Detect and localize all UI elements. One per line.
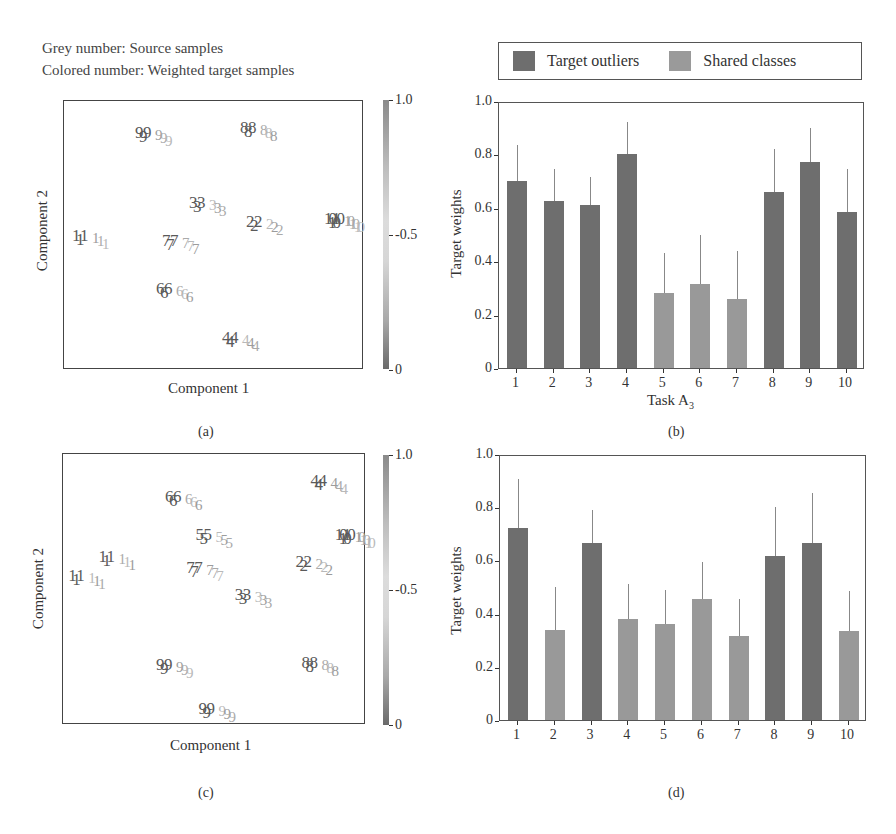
x-axis-label-c: Component 1 bbox=[170, 737, 251, 754]
colorbar-tick-min-a: 0 bbox=[395, 362, 402, 378]
x-tick-mark bbox=[774, 721, 775, 725]
source-sample-digit: 1 bbox=[80, 226, 85, 246]
legend-swatch-shared-classes bbox=[669, 51, 691, 71]
bar-2 bbox=[545, 630, 565, 720]
y-tick-label: 0 bbox=[457, 712, 493, 728]
x-tick-mark bbox=[589, 369, 590, 373]
caption-d: (d) bbox=[668, 785, 684, 801]
source-sample-digit: 1 bbox=[76, 566, 81, 586]
source-sample-digit: 6 bbox=[173, 487, 178, 507]
x-tick-label: 7 bbox=[732, 375, 739, 391]
target-sample-digit: 9 bbox=[165, 133, 169, 150]
source-sample-digit: 10 bbox=[343, 525, 352, 545]
scatter-plot-c: 4444446666665555551010101010101111111111… bbox=[62, 453, 365, 724]
bar-10 bbox=[837, 212, 857, 368]
target-sample-digit: 5 bbox=[220, 532, 224, 549]
y-axis-label-d: Target weights bbox=[448, 531, 465, 651]
target-sample-digit: 9 bbox=[228, 709, 232, 726]
bar-4 bbox=[618, 619, 638, 720]
source-sample-digit: 9 bbox=[206, 699, 211, 719]
x-tick-label: 2 bbox=[550, 727, 557, 743]
target-sample-digit: 1 bbox=[98, 576, 102, 593]
target-sample-digit: 3 bbox=[260, 592, 264, 609]
x-tick-mark bbox=[811, 721, 812, 725]
error-bar-6 bbox=[702, 562, 703, 599]
target-sample-digit: 7 bbox=[182, 235, 186, 252]
x-tick-label: 9 bbox=[807, 727, 814, 743]
bar-9 bbox=[802, 543, 822, 720]
target-sample-digit: 2 bbox=[266, 216, 270, 233]
target-sample-digit: 5 bbox=[225, 535, 229, 552]
caption-b: (b) bbox=[668, 424, 684, 440]
target-sample-digit: 9 bbox=[218, 703, 222, 720]
error-bar-10 bbox=[847, 169, 848, 212]
source-sample-digit: 9 bbox=[143, 123, 148, 143]
y-tick-label: 0.8 bbox=[456, 146, 492, 162]
y-tick-mark bbox=[495, 455, 499, 456]
y-tick-mark bbox=[494, 262, 498, 263]
source-sample-digit: 7 bbox=[170, 231, 175, 251]
x-tick-label: 4 bbox=[622, 375, 629, 391]
target-sample-digit: 6 bbox=[190, 494, 194, 511]
target-sample-digit: 6 bbox=[181, 286, 185, 303]
x-axis-label-a: Component 1 bbox=[168, 380, 249, 397]
target-sample-digit: 3 bbox=[209, 197, 213, 214]
source-sample-digit: 8 bbox=[248, 118, 253, 138]
error-bar-4 bbox=[628, 584, 629, 619]
x-tick-mark bbox=[738, 721, 739, 725]
source-sample-digit: 9 bbox=[164, 655, 169, 675]
target-sample-digit: 8 bbox=[321, 657, 325, 674]
target-sample-digit: 3 bbox=[265, 595, 269, 612]
x-tick-mark bbox=[553, 369, 554, 373]
y-axis-label-c: Component 2 bbox=[30, 529, 47, 649]
error-bar-3 bbox=[590, 177, 591, 205]
y-axis-label-b: Target weights bbox=[448, 174, 465, 294]
target-sample-digit: 2 bbox=[325, 562, 329, 579]
error-bar-2 bbox=[554, 169, 555, 201]
y-tick-label: 1.0 bbox=[456, 93, 492, 109]
source-sample-digit: 4 bbox=[230, 328, 235, 348]
bar-chart-d bbox=[499, 455, 866, 721]
source-sample-digit: 5 bbox=[203, 525, 208, 545]
bar-6 bbox=[692, 599, 712, 720]
target-sample-digit: 1 bbox=[128, 557, 132, 574]
bar-5 bbox=[655, 624, 675, 720]
source-sample-digit: 6 bbox=[164, 279, 169, 299]
target-sample-digit: 2 bbox=[276, 222, 280, 239]
bar-3 bbox=[580, 205, 600, 368]
error-bar-10 bbox=[849, 591, 850, 631]
bar-7 bbox=[729, 636, 749, 720]
target-sample-digit: 10 bbox=[354, 219, 361, 236]
y-tick-mark bbox=[495, 615, 499, 616]
target-sample-digit: 1 bbox=[93, 573, 97, 590]
x-tick-mark bbox=[664, 721, 665, 725]
x-tick-label: 10 bbox=[840, 727, 854, 743]
y-tick-mark bbox=[495, 668, 499, 669]
target-sample-digit: 6 bbox=[195, 497, 199, 514]
source-sample-digit: 8 bbox=[309, 653, 314, 673]
target-sample-digit: 3 bbox=[214, 200, 218, 217]
y-tick-mark bbox=[495, 561, 499, 562]
y-tick-mark bbox=[495, 508, 499, 509]
target-sample-digit: 10 bbox=[365, 535, 372, 552]
error-bar-6 bbox=[700, 235, 701, 284]
bar-10 bbox=[839, 631, 859, 720]
source-sample-digit: 4 bbox=[319, 471, 324, 491]
x-tick-label: 3 bbox=[585, 375, 592, 391]
caption-a: (a) bbox=[198, 424, 214, 440]
bar-3 bbox=[582, 543, 602, 720]
y-tick-label: 0.4 bbox=[457, 606, 493, 622]
note-grey-number: Grey number: Source samples bbox=[42, 40, 223, 57]
bar-9 bbox=[800, 162, 820, 368]
bar-1 bbox=[507, 181, 527, 368]
bar-5 bbox=[654, 293, 674, 368]
x-tick-mark bbox=[809, 369, 810, 373]
target-sample-digit: 7 bbox=[216, 568, 220, 585]
target-sample-digit: 4 bbox=[336, 478, 340, 495]
x-tick-label: 5 bbox=[659, 375, 666, 391]
x-tick-label: 2 bbox=[549, 375, 556, 391]
error-bar-9 bbox=[812, 493, 813, 544]
target-sample-digit: 7 bbox=[192, 241, 196, 258]
target-sample-digit: 4 bbox=[242, 332, 246, 349]
target-sample-digit: 1 bbox=[97, 233, 101, 250]
